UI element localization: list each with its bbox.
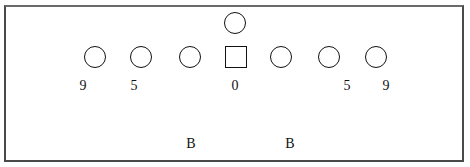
technique-label-left-9: 9: [80, 79, 87, 93]
linebacker-label-left: B: [186, 137, 195, 151]
player-left-guard-circle: [179, 46, 201, 68]
player-center-square: [225, 46, 247, 68]
player-quarterback-circle: [224, 12, 246, 34]
player-left-tackle-circle: [130, 46, 152, 68]
technique-label-left-5: 5: [131, 79, 138, 93]
player-right-tackle-circle: [318, 46, 340, 68]
linebacker-label-right: B: [285, 137, 294, 151]
player-right-end-circle: [365, 46, 387, 68]
player-right-guard-circle: [270, 46, 292, 68]
technique-label-0: 0: [232, 79, 239, 93]
player-left-end-circle: [84, 46, 106, 68]
technique-label-right-5: 5: [344, 79, 351, 93]
technique-label-right-9: 9: [383, 79, 390, 93]
